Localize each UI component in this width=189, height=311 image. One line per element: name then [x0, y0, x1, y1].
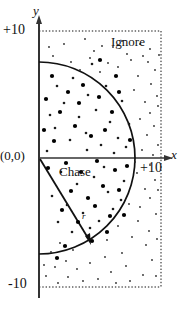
y-axis-bottom-tick-label: -10 [8, 277, 27, 291]
chase-region-label: Chase [59, 165, 91, 178]
y-axis-label: y [33, 4, 39, 17]
x-axis-max-tick-label: +10 [140, 161, 162, 175]
radius-label: r [82, 212, 86, 221]
y-axis [36, 15, 42, 298]
scatter-large-dots [42, 58, 132, 260]
y-axis-top-tick-label: +10 [3, 23, 25, 37]
ignore-region-label: Ignore [111, 35, 145, 48]
chase-ignore-diagram: y x +10 -10 (0,0) +10 Ignore Chase r [0, 0, 189, 311]
boundary-box [39, 31, 161, 287]
origin-label: (0,0) [0, 149, 25, 162]
x-axis-label: x [171, 148, 177, 161]
plot-canvas [0, 0, 189, 311]
scatter-medium-dots [46, 63, 131, 234]
